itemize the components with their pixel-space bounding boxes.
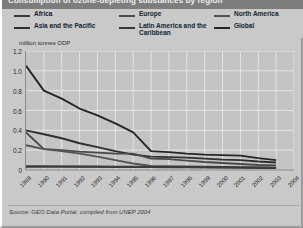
x-axis-tick: 1992	[72, 175, 86, 189]
plot-area	[25, 51, 294, 170]
legend-swatch-line-icon	[119, 15, 135, 17]
y-axis-tick: 0	[18, 167, 22, 174]
x-axis-tick: 1991	[54, 175, 68, 189]
legend-item-label: Africa	[34, 11, 52, 18]
legend-swatch-line-icon	[214, 27, 230, 29]
legend-item[interactable]: Africa	[14, 11, 95, 22]
figure-panel: Consumption of ozone-depleting substance…	[0, 0, 303, 228]
x-axis-tick: 1998	[179, 175, 193, 189]
legend-item[interactable]: Latin America and the Caribbean	[119, 23, 213, 34]
legend-item-label: Europe	[139, 11, 161, 18]
legend-item-label: North America	[234, 11, 279, 18]
y-axis-tick-labels: 00.20.40.60.81.01.2	[2, 48, 24, 170]
legend-swatch-line-icon	[14, 15, 30, 17]
plot-area-wrapper: 00.20.40.60.81.01.2	[2, 48, 303, 178]
x-axis-tick-labels: 1989199019911992199319941995199619971998…	[25, 175, 297, 203]
legend-column-2: EuropeLatin America and the Caribbean	[119, 11, 213, 35]
legend-item[interactable]: Europe	[119, 11, 213, 22]
x-axis-tick: 1993	[90, 175, 104, 189]
x-axis-tick: 1996	[144, 175, 158, 189]
legend-item[interactable]: Global	[214, 23, 279, 34]
legend-swatch-line-icon	[214, 15, 230, 17]
legend-swatch-line-icon	[14, 27, 30, 29]
x-axis-tick: 2001	[233, 175, 247, 189]
x-axis-tick: 2003	[269, 175, 283, 189]
legend-item-label: Global	[234, 23, 254, 30]
chart-canvas	[26, 51, 294, 171]
legend-item[interactable]: North America	[214, 11, 279, 22]
y-axis-tick: 0.8	[13, 87, 22, 94]
legend-item-label: Asia and the Pacific	[34, 23, 95, 30]
x-axis-tick: 1990	[36, 175, 50, 189]
legend-swatch-line-icon	[119, 27, 135, 29]
x-axis-tick: 1995	[126, 175, 140, 189]
chart-title-bar: Consumption of ozone-depleting substance…	[2, 0, 303, 9]
x-axis-tick: 1999	[197, 175, 211, 189]
source-note: Source: GEO Data Portal, compiled from U…	[9, 209, 151, 215]
x-axis-tick: 1997	[162, 175, 176, 189]
x-axis-tick: 2000	[215, 175, 229, 189]
legend-column-1: AfricaAsia and the Pacific	[14, 11, 95, 35]
source-divider	[8, 205, 299, 206]
x-axis-tick: 2004	[287, 175, 301, 189]
chart-legend: AfricaAsia and the PacificEuropeLatin Am…	[2, 9, 303, 38]
page-title: Consumption of ozone-depleting substance…	[8, 0, 222, 5]
legend-item[interactable]: Asia and the Pacific	[14, 23, 95, 34]
y-axis-unit-label: million tonnes ODP	[19, 40, 70, 46]
x-axis-tick: 2002	[251, 175, 265, 189]
y-axis-tick: 0.4	[13, 127, 22, 134]
legend-column-3: North AmericaGlobal	[214, 11, 279, 35]
y-axis-tick: 0.6	[13, 107, 22, 114]
x-axis-tick: 1994	[108, 175, 122, 189]
y-axis-tick: 0.2	[13, 147, 22, 154]
y-axis-tick: 1.2	[13, 48, 22, 55]
legend-item-label: Latin America and the Caribbean	[139, 23, 213, 36]
y-axis-tick: 1.0	[13, 67, 22, 74]
data-series-line	[26, 167, 276, 168]
